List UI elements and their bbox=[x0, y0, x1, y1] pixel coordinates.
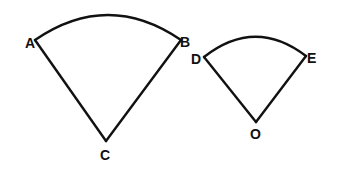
label-b: B bbox=[180, 34, 190, 50]
arc-ab bbox=[35, 15, 181, 40]
arc-de bbox=[204, 37, 306, 57]
radius-ca bbox=[35, 40, 106, 141]
label-d: D bbox=[191, 51, 201, 67]
radius-od bbox=[204, 57, 256, 122]
label-a: A bbox=[25, 35, 35, 51]
label-e: E bbox=[307, 50, 316, 66]
diagram-canvas: A B C D E O bbox=[0, 0, 340, 179]
radius-oe bbox=[256, 56, 306, 122]
radius-cb bbox=[106, 40, 181, 141]
label-o: O bbox=[250, 126, 261, 142]
large-sector: A B C bbox=[25, 15, 190, 163]
label-c: C bbox=[100, 147, 110, 163]
small-sector: D E O bbox=[191, 37, 316, 142]
